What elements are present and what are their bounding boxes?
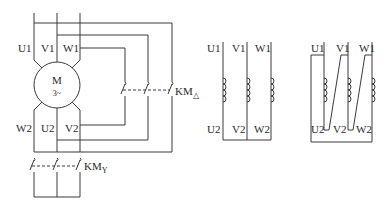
star-u2: U2 [207, 123, 220, 135]
terminal-u1: U1 [18, 42, 31, 54]
km-delta-label: KM△ [175, 85, 200, 100]
delta-v2: V2 [333, 123, 346, 135]
delta-w2: W2 [356, 123, 372, 135]
delta-u1: U1 [311, 42, 324, 54]
motor-label: M [52, 74, 62, 86]
star-v1: V1 [232, 42, 245, 54]
km-delta-contacts [121, 82, 173, 94]
terminal-v2: V2 [65, 122, 78, 134]
terminal-v1: V1 [41, 42, 54, 54]
km-star-contacts [30, 158, 81, 170]
motor-sublabel: 3~ [53, 89, 62, 98]
star-w2: W2 [254, 123, 270, 135]
km-star-label: KMY [84, 160, 108, 175]
delta-w1: W1 [359, 42, 375, 54]
terminal-w2: W2 [16, 122, 32, 134]
terminal-w1: W1 [63, 42, 79, 54]
star-connection-diagram: U1 V1 W1 U2 V2 W2 [207, 42, 274, 140]
star-v2: V2 [232, 123, 245, 135]
terminal-u2: U2 [41, 122, 54, 134]
star-u1: U1 [207, 42, 220, 54]
star-w1: W1 [255, 42, 271, 54]
delta-connection-diagram: U1 V1 W1 U2 V2 W2 [311, 42, 375, 142]
main-circuit: KM△ M 3~ U1 V1 W1 W2 U2 V2 [16, 13, 200, 197]
wye-delta-starter-diagram: KM△ M 3~ U1 V1 W1 W2 U2 V2 [0, 0, 387, 211]
delta-u2: U2 [311, 123, 324, 135]
delta-v1: V1 [336, 42, 349, 54]
